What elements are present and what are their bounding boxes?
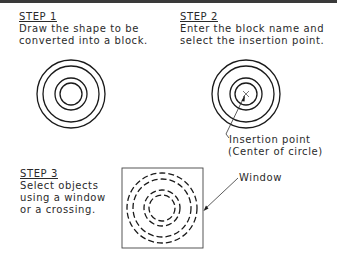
step-3-dashed-circles [127, 173, 197, 243]
step-3-line-1: Select objects [20, 180, 98, 191]
step-2-heading: STEP 2 [180, 11, 218, 22]
insertion-point-label: Insertion point [229, 134, 311, 145]
step-3-line-3: or a crossing. [20, 204, 96, 215]
step-1-line-1: Draw the shape to be [19, 23, 139, 34]
step-1: STEP 1 Draw the shape to be converted in… [19, 11, 148, 128]
step-2: STEP 2 Enter the block name and select t… [180, 11, 324, 157]
top-border [0, 0, 337, 3]
step-2-line-1: Enter the block name and [180, 23, 324, 34]
step-3: STEP 3 Select objects using a window or … [20, 168, 282, 248]
step-3-line-2: using a window [20, 192, 106, 203]
window-leader [204, 178, 239, 211]
step-1-line-2: converted into a block. [19, 35, 148, 46]
step-1-concentric-circles [37, 60, 105, 128]
step-2-line-2: select the insertion point. [180, 35, 324, 46]
step-3-heading: STEP 3 [20, 168, 58, 179]
center-x-mark-icon [243, 91, 249, 97]
window-label: Window [239, 172, 282, 183]
step-1-heading: STEP 1 [19, 11, 57, 22]
block-creation-diagram: STEP 1 Draw the shape to be converted in… [0, 0, 337, 254]
insertion-point-sublabel: (Center of circle) [228, 146, 323, 157]
